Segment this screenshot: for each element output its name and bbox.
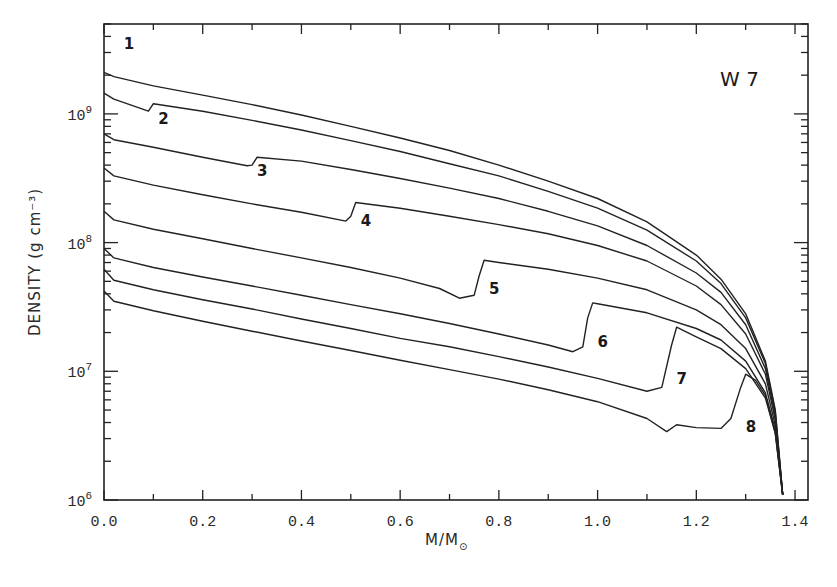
y-tick-label: 106: [67, 490, 92, 511]
curve-label-7: 7: [677, 370, 687, 388]
y-tick-label: 109: [67, 104, 92, 125]
curve-5: [104, 211, 783, 494]
model-annotation: W 7: [720, 67, 759, 91]
x-tick-label: 1.2: [683, 514, 710, 531]
curve-label-3: 3: [257, 162, 267, 180]
curve-label-4: 4: [361, 212, 371, 230]
x-tick-label: 1.0: [584, 514, 611, 531]
x-tick-label: 0.0: [90, 514, 117, 531]
density-curves: [104, 72, 783, 494]
x-tick-label: 0.8: [485, 514, 512, 531]
curve-label-8: 8: [746, 418, 756, 436]
x-tick-label: 0.2: [189, 514, 216, 531]
y-tick-labels: 106107108109: [67, 104, 92, 511]
density-profile-chart: 0.00.20.40.60.81.01.21.4 106107108109 12…: [0, 0, 837, 587]
curve-label-2: 2: [158, 110, 168, 128]
curve-labels: 12345678: [124, 35, 756, 436]
x-tick-labels: 0.00.20.40.60.81.01.21.4: [90, 514, 808, 531]
curve-label-5: 5: [489, 280, 499, 298]
sun-symbol: ⊙: [459, 541, 468, 552]
curve-2: [104, 93, 783, 495]
x-axis-title-main: M/M: [425, 531, 459, 549]
x-axis-title: M/M⊙: [425, 531, 468, 552]
x-tick-label: 1.4: [782, 514, 809, 531]
y-tick-label: 108: [67, 233, 92, 254]
curve-1: [104, 72, 783, 494]
y-tick-label: 107: [67, 361, 92, 382]
x-tick-label: 0.4: [288, 514, 315, 531]
x-tick-label: 0.6: [387, 514, 414, 531]
curve-label-1: 1: [124, 35, 134, 53]
curve-4: [104, 168, 783, 495]
curve-3: [104, 134, 783, 495]
y-axis-title: DENSITY (g cm⁻³): [26, 188, 44, 336]
curve-label-6: 6: [598, 333, 608, 351]
